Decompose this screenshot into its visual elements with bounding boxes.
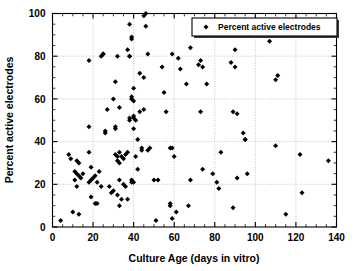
x-tick-label: 20: [88, 232, 100, 243]
x-tick-label: 40: [128, 232, 140, 243]
chart-canvas: 020406080100120140 020406080100 Culture …: [0, 0, 364, 271]
x-tick-label: 120: [288, 232, 305, 243]
x-tick-label: 140: [328, 232, 345, 243]
x-tick-label: 100: [247, 232, 264, 243]
y-tick-label: 60: [34, 94, 46, 105]
x-axis-label: Culture Age (days in vitro): [129, 252, 260, 264]
y-tick-label: 0: [40, 222, 46, 233]
legend[interactable]: Percent active electrodes: [192, 18, 339, 38]
chart-background: [0, 0, 364, 271]
x-tick-label: 60: [169, 232, 181, 243]
y-tick-label: 80: [34, 51, 46, 62]
y-tick-label: 40: [34, 136, 46, 147]
y-tick-label: 100: [29, 8, 46, 19]
legend-entry-label: Percent active electrodes: [218, 22, 321, 32]
y-axis-label: Percent active electrodes: [3, 57, 15, 184]
y-tick-label: 20: [34, 179, 46, 190]
x-tick-label: 0: [50, 232, 56, 243]
x-tick-label: 80: [209, 232, 221, 243]
scatter-plot-figure: 020406080100120140 020406080100 Culture …: [0, 0, 364, 271]
